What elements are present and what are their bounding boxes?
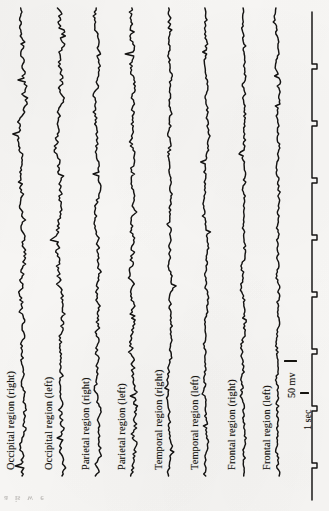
time-scale-label: 1 sec xyxy=(302,410,313,430)
amplitude-scale-bar xyxy=(284,360,297,362)
calibration-scale: 50 mv 1 sec xyxy=(283,352,317,444)
bleed-through-glyph: w xyxy=(27,494,33,503)
timing-trace xyxy=(0,0,329,511)
amplitude-scale-label: 50 mv xyxy=(286,372,297,398)
time-scale-bar xyxy=(300,392,309,394)
bleed-through-glyph: is xyxy=(15,494,20,503)
eeg-figure: Occipital region (right)Occipital region… xyxy=(0,0,329,511)
bleed-through-marks: aiswe xyxy=(4,489,44,507)
bleed-through-glyph: e xyxy=(40,494,44,503)
bleed-through-glyph: a xyxy=(4,494,8,503)
